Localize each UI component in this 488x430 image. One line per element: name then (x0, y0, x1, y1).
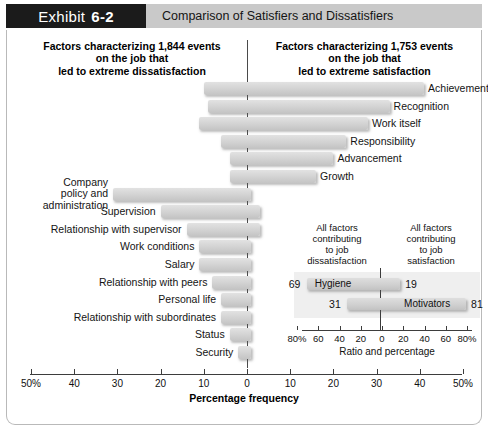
exhibit-title-bar: Comparison of Satisfiers and Dissatisfie… (146, 4, 482, 28)
bar (212, 276, 251, 289)
bar (221, 135, 346, 148)
bar-label: Work itself (372, 116, 421, 130)
x-axis-tick-label: 0 (244, 378, 250, 389)
ratio-inset-chart: All factorscontributingto jobdissatisfac… (292, 222, 482, 362)
exhibit-title: Comparison of Satisfiers and Dissatisfie… (162, 9, 393, 23)
inset-x-axis-line (302, 330, 472, 331)
inset-x-axis-tick-label: 60 (440, 333, 451, 344)
inset-right-value: 81 (471, 298, 483, 310)
inset-bar-label: Hygiene (315, 278, 352, 290)
inset-x-axis-tick-label: 80% (457, 333, 476, 344)
bar-row: Responsibility (0, 135, 488, 148)
bar (199, 117, 367, 130)
inset-x-axis-tick-label: 20 (355, 333, 366, 344)
bar-label: Relationship with subordinates (20, 310, 216, 324)
x-axis-tick-label: 20 (328, 378, 339, 389)
inset-x-axis-tick-label: 20 (398, 333, 409, 344)
x-axis-tick (204, 369, 205, 374)
inset-axis-title: Ratio and percentage (292, 346, 482, 357)
exhibit-number-tab: Exhibit 6-2 (6, 4, 146, 28)
x-axis: 50%4030201001020304050% (0, 374, 488, 376)
bar (230, 152, 334, 165)
inset-bar-row: Hygiene6919 (292, 278, 482, 290)
bar-label: Growth (320, 169, 354, 183)
bar-row: Achievement (0, 82, 488, 95)
inset-left-value: 31 (329, 298, 341, 310)
inset-x-axis-tick (382, 326, 383, 330)
x-axis-tick (333, 369, 334, 374)
x-axis-tick-label: 20 (155, 378, 166, 389)
bar (230, 170, 316, 183)
inset-bar-label: Motivators (404, 298, 450, 310)
x-axis-tick-label: 40 (414, 378, 425, 389)
x-axis-tick (117, 369, 118, 374)
bar (208, 100, 389, 113)
inset-right-value: 19 (405, 278, 417, 290)
x-axis-title: Percentage frequency (0, 392, 488, 404)
inset-x-axis-tick-label: 40 (334, 333, 345, 344)
bar (204, 82, 424, 95)
x-axis-tick (420, 369, 421, 374)
bar-label: Supervision (20, 204, 156, 218)
bar (221, 293, 251, 306)
bar-row: Advancement (0, 152, 488, 165)
inset-x-axis-tick (446, 326, 447, 330)
bar-row: Work itself (0, 117, 488, 130)
inset-x-axis: 80%604020020406080% (294, 330, 480, 332)
inset-left-value: 69 (289, 278, 301, 290)
bar (187, 223, 260, 236)
x-axis-tick (463, 369, 464, 374)
exhibit-header: Exhibit 6-2 Comparison of Satisfiers and… (6, 4, 482, 28)
inset-x-axis-tick-label: 60 (313, 333, 324, 344)
x-axis-tick (74, 369, 75, 374)
bar (113, 188, 251, 201)
x-axis-tick-label: 50% (453, 378, 473, 389)
bar (199, 240, 251, 253)
inset-right-heading: All factorscontributingto jobsatisfactio… (388, 222, 474, 266)
x-axis-tick-label: 10 (198, 378, 209, 389)
bar-row: Companypolicy andadministration (0, 188, 488, 201)
inset-bar-row: Motivators3181 (292, 298, 482, 310)
x-axis-tick (290, 369, 291, 374)
inset-x-axis-tick (297, 326, 298, 330)
inset-x-axis-tick-label: 80% (287, 333, 306, 344)
inset-x-axis-tick (467, 326, 468, 330)
bar-label: Personal life (20, 292, 216, 306)
exhibit-figure: Exhibit 6-2 Comparison of Satisfiers and… (0, 0, 488, 430)
bar-label: Work conditions (20, 239, 194, 253)
exhibit-word: Exhibit (38, 8, 85, 25)
inset-x-axis-tick-label: 40 (419, 333, 430, 344)
bar (221, 311, 251, 324)
x-axis-tick-label: 30 (371, 378, 382, 389)
bar-label: Responsibility (350, 134, 415, 148)
exhibit-number: 6-2 (91, 8, 114, 25)
bar-label: Achievement (428, 81, 488, 95)
bar-label: Recognition (394, 99, 449, 113)
inset-x-axis-tick (361, 326, 362, 330)
bar (199, 258, 251, 271)
x-axis-line (30, 374, 462, 375)
bar (230, 328, 252, 341)
x-axis-tick (247, 369, 248, 374)
x-axis-tick (377, 369, 378, 374)
x-axis-tick-label: 50% (21, 378, 41, 389)
left-column-title: Factors characterizing 1,844 eventson th… (22, 40, 242, 77)
inset-left-heading: All factorscontributingto jobdissatisfac… (294, 222, 380, 266)
x-axis-tick (161, 369, 162, 374)
bar-label: Salary (20, 257, 194, 271)
bar-label: Status (20, 327, 225, 341)
x-axis-tick-label: 40 (69, 378, 80, 389)
bar (161, 205, 260, 218)
x-axis-tick-label: 10 (285, 378, 296, 389)
inset-x-axis-tick-label: 0 (379, 333, 384, 344)
inset-x-axis-tick (318, 326, 319, 330)
x-axis-tick-label: 30 (112, 378, 123, 389)
bar-label: Relationship with supervisor (20, 222, 182, 236)
bar-label: Advancement (337, 151, 401, 165)
x-axis-tick (31, 369, 32, 374)
bar-row: Supervision (0, 205, 488, 218)
inset-x-axis-tick (425, 326, 426, 330)
right-column-title: Factors characterizing 1,753 eventson th… (252, 40, 477, 77)
bar-label: Security (20, 345, 233, 359)
bar-label: Relationship with peers (20, 275, 207, 289)
